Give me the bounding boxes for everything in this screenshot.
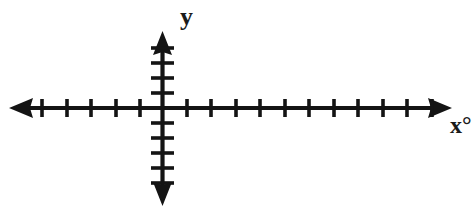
y-axis-bottom-arrowhead (153, 182, 172, 206)
axes-drawing (0, 0, 476, 208)
y-axis-label: y (180, 4, 193, 30)
x-axis-left-arrowhead (9, 98, 33, 118)
x-axis-label: x° (450, 113, 472, 137)
coordinate-plane-figure: y x° (0, 0, 476, 208)
y-axis-top-arrowhead (153, 31, 172, 55)
